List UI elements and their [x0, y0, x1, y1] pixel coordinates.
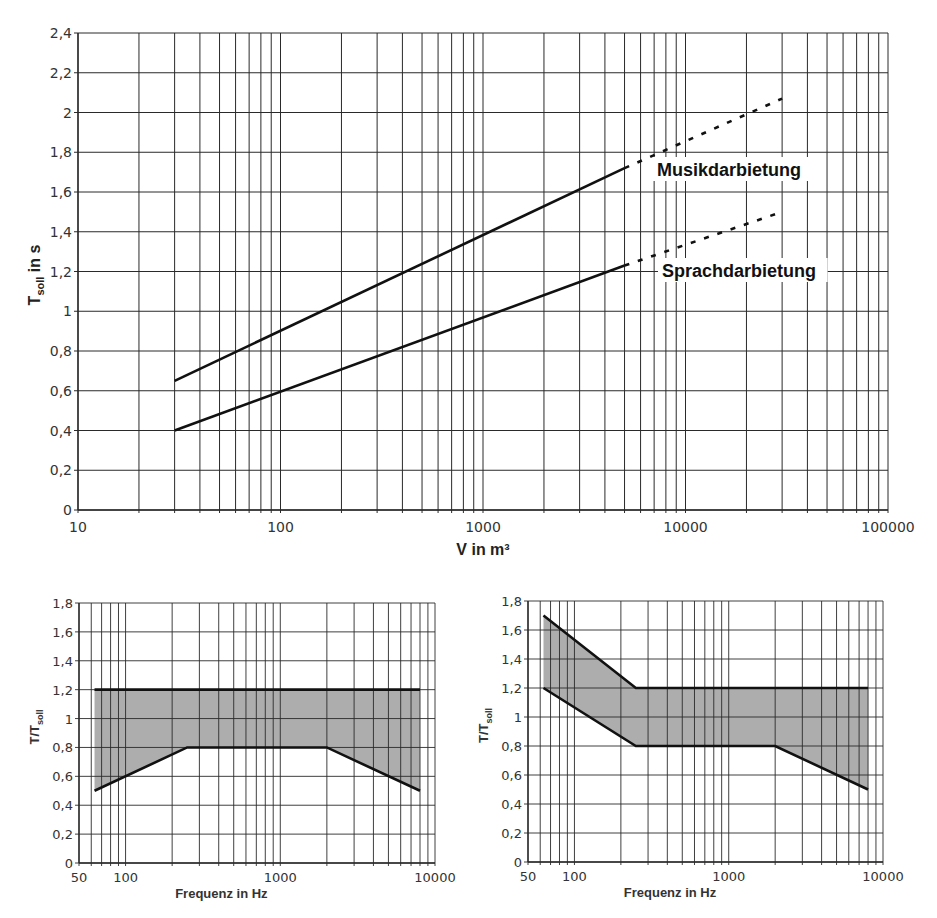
x-tick-label: 10000 [862, 869, 903, 884]
y-tick-label: 0,2 [50, 462, 72, 478]
x-tick-label: 1000 [465, 519, 501, 535]
y-axis-title: T/Tsoll [27, 709, 45, 744]
y-axis-title: T/Tsoll [476, 708, 494, 743]
chart-canvas: 00,20,40,60,811,21,41,61,822,22,41010010… [0, 0, 937, 918]
y-axis-title-subscript: soll [35, 709, 45, 725]
x-tick-label: 50 [520, 869, 537, 884]
y-tick-label: 0 [63, 502, 72, 518]
y-tick-label: 1,2 [52, 683, 73, 698]
y-tick-label: 1,8 [52, 596, 73, 611]
y-tick-label: 0,6 [501, 768, 522, 783]
tolerance-chart-music: 00,20,40,60,811,21,41,61,850100100010000… [27, 596, 456, 901]
y-tick-label: 0,4 [52, 798, 73, 813]
y-tick-label: 1,6 [52, 625, 73, 640]
y-tick-label: 0,8 [50, 343, 72, 359]
x-tick-label: 10000 [414, 870, 455, 885]
y-tick-label: 0,6 [50, 383, 72, 399]
y-tick-label: 1 [514, 710, 522, 725]
x-axis-title: Frequenz in Hz [175, 886, 268, 901]
y-tick-label: 1,4 [501, 652, 522, 667]
y-axis-title-main: T [26, 295, 43, 305]
y-tick-label: 1,4 [52, 654, 73, 669]
y-tick-label: 1,6 [50, 184, 72, 200]
x-tick-label: 100 [113, 870, 138, 885]
tolerance-chart-speech: 00,20,40,60,811,21,41,61,850100100010000… [476, 594, 904, 900]
y-tick-label: 1,4 [50, 224, 72, 240]
y-axis-title-suffix: in s [26, 245, 43, 277]
series-sprachdarbietung: Sprachdarbietung [175, 212, 828, 431]
tolerance-band [543, 616, 868, 790]
y-axis-title-main: T/T [476, 723, 491, 743]
y-axis-title: Tsoll in s [26, 245, 46, 306]
y-tick-label: 0 [65, 856, 73, 871]
y-tick-label: 0,4 [501, 797, 522, 812]
y-tick-label: 2,2 [50, 65, 72, 81]
x-tick-label: 50 [71, 870, 88, 885]
y-tick-label: 1 [63, 303, 72, 319]
x-axis-title: V in m³ [456, 541, 509, 558]
y-tick-label: 0 [514, 855, 522, 870]
y-tick-label: 2 [63, 105, 72, 121]
y-tick-label: 1,2 [501, 681, 522, 696]
y-axis-title-subscript: soll [34, 277, 46, 296]
y-tick-label: 1,8 [501, 594, 522, 609]
y-tick-label: 1,2 [50, 264, 72, 280]
x-tick-label: 1000 [712, 869, 745, 884]
x-tick-label: 100 [562, 869, 587, 884]
series-label: Sprachdarbietung [662, 261, 816, 281]
y-tick-label: 0,2 [52, 827, 73, 842]
y-tick-label: 0,8 [501, 739, 522, 754]
x-tick-label: 10000 [663, 519, 708, 535]
x-tick-label: 100000 [861, 519, 914, 535]
series-musikdarbietung: Musikdarbietung [175, 99, 812, 381]
y-tick-label: 1,8 [50, 144, 72, 160]
y-axis-title-main: T/T [27, 725, 42, 745]
y-axis-title-subscript: soll [484, 708, 494, 724]
y-tick-label: 1,6 [501, 623, 522, 638]
x-tick-label: 1000 [264, 870, 297, 885]
y-tick-label: 0,2 [501, 826, 522, 841]
y-tick-label: 0,8 [52, 740, 73, 755]
x-tick-label: 10 [69, 519, 87, 535]
y-tick-label: 0,6 [52, 769, 73, 784]
y-tick-label: 1 [65, 712, 73, 727]
series-label: Musikdarbietung [657, 160, 801, 180]
series-line-extrapolated [625, 212, 783, 266]
y-tick-label: 0,4 [50, 423, 72, 439]
y-tick-label: 2,4 [50, 25, 72, 41]
x-axis-title: Frequenz in Hz [624, 885, 717, 900]
main-reverberation-chart: 00,20,40,60,811,21,41,61,822,22,41010010… [26, 25, 915, 558]
x-tick-label: 100 [267, 519, 294, 535]
tolerance-band [95, 690, 420, 791]
